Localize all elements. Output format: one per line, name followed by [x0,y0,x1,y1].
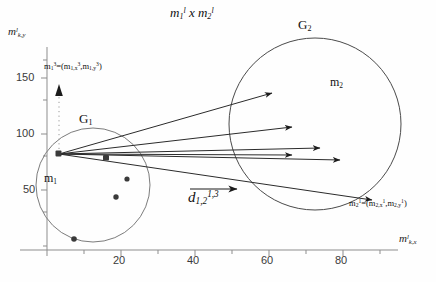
y-tick-50: 50 [23,184,35,195]
vector-diagram-svg [0,0,436,282]
target-point-label: m21=(m2,x1,m2,y1) [349,199,407,209]
distance-vectors [59,93,372,200]
x-axis-label: mlk,x [399,233,417,245]
x-tick-40: 40 [187,255,199,266]
vector-3 [59,148,320,154]
x-tick-20: 20 [113,255,125,266]
g1-point-4 [113,194,118,199]
cluster-label-g2: G2 [298,18,311,33]
x-tick-60: 60 [261,255,273,266]
diagram-canvas: m1l x m2l mlk,y mlk,x 150 100 50 20 40 6… [0,0,436,282]
cluster-circle-g2 [229,38,401,210]
g1-data-points [56,151,130,242]
g1-point-2 [103,155,109,161]
member-label-m1: m1 [44,172,57,185]
x-axis-ticks [47,250,380,256]
source-guide-arrowhead [55,84,63,96]
y-tick-150: 150 [16,72,34,83]
y-tick-100: 100 [16,128,34,139]
x-tick-80: 80 [335,255,347,266]
g1-point-3 [124,176,129,181]
y-axis-label: mlk,y [8,26,26,38]
g1-point-5 [71,236,77,242]
distance-vector-label: d1,21,3 [188,190,219,206]
member-label-m2: m2 [330,76,343,89]
vector-2 [59,127,292,154]
source-point-marker [56,151,62,157]
chart-title: m1l x m2l [170,6,214,21]
cluster-label-g1: G1 [79,112,92,127]
source-point-label: m13=(m1,x3,m1,y3) [44,62,102,72]
